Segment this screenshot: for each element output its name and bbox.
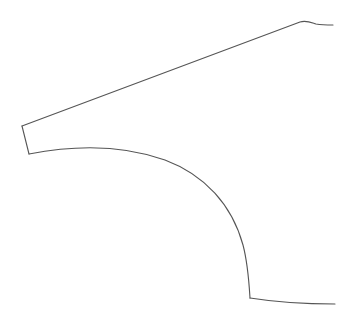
fender-bottom-edge — [250, 298, 335, 304]
fender-drawing-canvas — [0, 0, 364, 329]
fender-top-edge — [22, 21, 333, 126]
fender-front-edge — [22, 126, 29, 154]
fender-outline-svg — [0, 0, 364, 329]
fender-wheel-arch — [29, 148, 250, 298]
